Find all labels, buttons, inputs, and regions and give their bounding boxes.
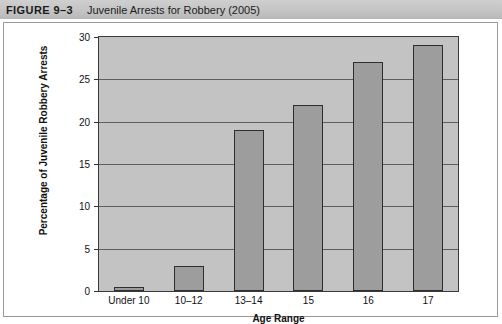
bar (174, 266, 204, 291)
plot-inner (99, 37, 458, 291)
y-tick-label: 20 (66, 116, 90, 127)
figure-header-band: FIGURE 9–3 Juvenile Arrests for Robbery … (0, 0, 502, 19)
gridline (99, 164, 458, 165)
gridline (99, 249, 458, 250)
bar-chart: Percentage of Juvenile Robbery Arrests 0… (4, 23, 499, 318)
x-axis-ticks: Under 1010–1213–14151617 (98, 295, 459, 311)
figure-panel: Percentage of Juvenile Robbery Arrests 0… (3, 22, 498, 317)
bar (353, 62, 383, 291)
plot-area (98, 36, 459, 292)
figure-number-label: FIGURE 9–3 (6, 4, 73, 16)
gridline (99, 122, 458, 123)
figure-title-label: Juvenile Arrests for Robbery (2005) (87, 4, 260, 16)
y-tick-label: 15 (66, 159, 90, 170)
gridline (99, 206, 458, 207)
x-axis-title: Age Range (98, 313, 459, 324)
y-axis-title: Percentage of Juvenile Robbery Arrests (38, 21, 49, 261)
y-tick-label: 25 (66, 74, 90, 85)
x-tick-label: Under 10 (108, 295, 149, 306)
bar (413, 45, 443, 291)
x-tick-label: 13–14 (235, 295, 263, 306)
x-tick-label: 17 (423, 295, 434, 306)
y-axis-ticks: 051015202530 (64, 36, 98, 292)
y-tick-label: 10 (66, 201, 90, 212)
x-tick-label: 16 (363, 295, 374, 306)
y-tick-label: 0 (66, 286, 90, 297)
bar (293, 105, 323, 291)
y-tick-label: 30 (66, 32, 90, 43)
x-tick-label: 15 (303, 295, 314, 306)
y-tick-label: 5 (66, 243, 90, 254)
gridline (99, 79, 458, 80)
x-tick-label: 10–12 (175, 295, 203, 306)
bar (234, 130, 264, 291)
bar (114, 287, 144, 291)
